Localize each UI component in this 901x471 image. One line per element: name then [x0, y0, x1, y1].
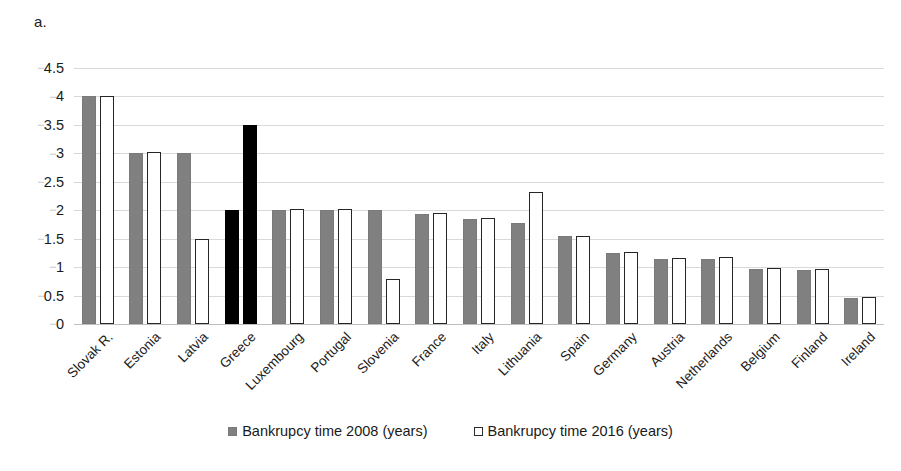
- y-tick-mark: [38, 125, 44, 126]
- bar[interactable]: [463, 219, 477, 324]
- y-axis-tick-labels: 00.511.522.533.544.5: [0, 68, 64, 324]
- bar[interactable]: [797, 270, 811, 324]
- bar-group: [455, 68, 503, 324]
- y-tick-label: 1: [56, 260, 64, 275]
- bar-group: [360, 68, 408, 324]
- x-category-label: Greece: [217, 330, 258, 371]
- legend-label: Bankrupcy time 2016 (years): [488, 424, 673, 439]
- bar[interactable]: [844, 298, 858, 324]
- y-tick-mark: [50, 324, 56, 325]
- y-tick-label: 0: [56, 317, 64, 332]
- legend-label: Bankrupcy time 2008 (years): [242, 424, 427, 439]
- y-tick-mark: [50, 267, 56, 268]
- bar-group: [646, 68, 694, 324]
- bar-group: [169, 68, 217, 324]
- plot-area: [74, 68, 884, 324]
- x-category-label: Spain: [558, 330, 592, 364]
- chart-page: a. 00.511.522.533.544.5 Slovak R.Estonia…: [0, 0, 901, 471]
- x-category-label: Portugal: [308, 330, 353, 375]
- y-tick-label: 2: [56, 203, 64, 218]
- bar-group: [789, 68, 837, 324]
- bar[interactable]: [82, 96, 96, 324]
- bar[interactable]: [576, 236, 590, 324]
- legend-item[interactable]: Bankrupcy time 2008 (years): [228, 424, 427, 439]
- x-category-label: Slovenia: [355, 330, 401, 376]
- y-tick-label: 4.5: [44, 61, 64, 76]
- chart-legend: Bankrupcy time 2008 (years)Bankrupcy tim…: [0, 424, 901, 439]
- bar-group: [122, 68, 170, 324]
- bar-group: [408, 68, 456, 324]
- y-tick-label: 3: [56, 146, 64, 161]
- bar-group: [217, 68, 265, 324]
- bar[interactable]: [767, 268, 781, 324]
- bar[interactable]: [320, 210, 334, 324]
- x-category-label: Belgium: [738, 330, 782, 374]
- x-category-label: Lithuania: [496, 330, 544, 378]
- bar[interactable]: [177, 153, 191, 324]
- y-tick-mark: [50, 210, 56, 211]
- bar[interactable]: [368, 210, 382, 324]
- bar[interactable]: [654, 259, 668, 324]
- bar[interactable]: [606, 253, 620, 324]
- bar-group: [312, 68, 360, 324]
- x-category-label: Italy: [469, 330, 496, 357]
- x-category-label: Latvia: [176, 330, 211, 365]
- y-tick-mark: [38, 239, 44, 240]
- y-tick-mark: [38, 182, 44, 183]
- bar-group: [265, 68, 313, 324]
- panel-letter: a.: [34, 14, 47, 29]
- bar[interactable]: [415, 214, 429, 324]
- bar-group: [503, 68, 551, 324]
- x-category-label: Austria: [648, 330, 687, 369]
- bar[interactable]: [815, 269, 829, 324]
- bar[interactable]: [129, 153, 143, 324]
- x-category-label: France: [410, 330, 449, 369]
- y-tick-mark: [38, 68, 44, 69]
- bar[interactable]: [243, 125, 257, 324]
- bar-group: [74, 68, 122, 324]
- bar[interactable]: [529, 192, 543, 324]
- bar[interactable]: [433, 213, 447, 324]
- bar[interactable]: [672, 258, 686, 324]
- bar[interactable]: [701, 259, 715, 324]
- bar-series-container: [74, 68, 884, 324]
- x-category-label: Estonia: [122, 330, 163, 371]
- bar[interactable]: [719, 257, 733, 324]
- y-tick-mark: [50, 96, 56, 97]
- y-tick-mark: [50, 153, 56, 154]
- bar[interactable]: [225, 210, 239, 324]
- y-tick-label: 4: [56, 89, 64, 104]
- bar-group: [550, 68, 598, 324]
- y-tick-label: 3.5: [44, 118, 64, 133]
- bar[interactable]: [100, 96, 114, 324]
- bar[interactable]: [481, 218, 495, 324]
- legend-swatch-2008-icon: [228, 427, 237, 436]
- legend-item[interactable]: Bankrupcy time 2016 (years): [474, 424, 673, 439]
- bar[interactable]: [338, 209, 352, 324]
- y-tick-mark: [38, 296, 44, 297]
- bar[interactable]: [624, 252, 638, 324]
- y-tick-label: 1.5: [44, 231, 64, 246]
- x-category-label: Ireland: [839, 330, 878, 369]
- bar[interactable]: [558, 236, 572, 324]
- bar-group: [693, 68, 741, 324]
- legend-swatch-2016-icon: [474, 427, 483, 436]
- bar[interactable]: [290, 209, 304, 324]
- bar-group: [836, 68, 884, 324]
- x-category-label: Germany: [591, 330, 640, 379]
- y-tick-label: 0.5: [44, 288, 64, 303]
- x-category-label: Slovak R.: [65, 330, 115, 380]
- bar[interactable]: [195, 239, 209, 324]
- bar[interactable]: [749, 269, 763, 324]
- y-tick-label: 2.5: [44, 175, 64, 190]
- x-axis-category-labels: Slovak R.EstoniaLatviaGreeceLuxembourgPo…: [74, 326, 884, 418]
- bar[interactable]: [272, 210, 286, 324]
- bar-group: [741, 68, 789, 324]
- gridline: [74, 324, 884, 325]
- x-category-label: Finland: [789, 330, 830, 371]
- bar[interactable]: [147, 152, 161, 324]
- bar[interactable]: [511, 223, 525, 324]
- bar-group: [598, 68, 646, 324]
- bar[interactable]: [386, 279, 400, 325]
- bar[interactable]: [862, 297, 876, 324]
